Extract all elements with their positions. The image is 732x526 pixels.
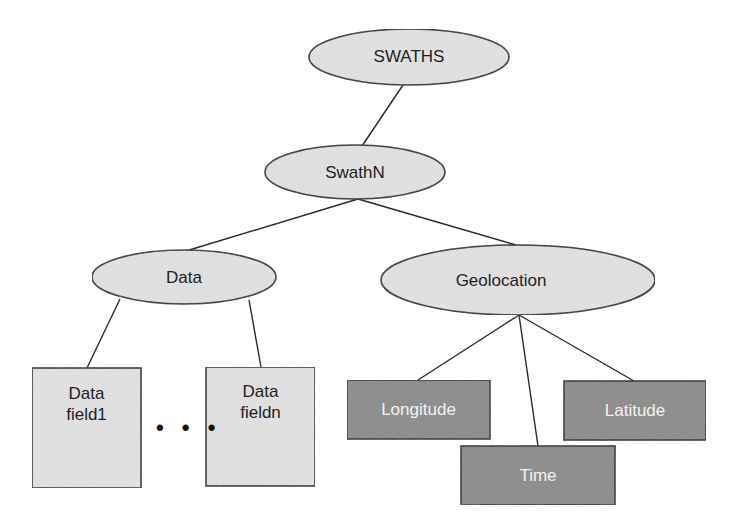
node-longitude [347,380,490,439]
edge-data-fieldn [249,300,261,367]
ellipsis-dots: • • • [156,418,221,438]
label-data-fieldn: Data fieldn [206,381,315,423]
edge-geolocation-latitude [519,315,634,381]
node-time [461,446,615,505]
edge-geolocation-time [519,315,538,446]
edge-swathn-geolocation [358,199,516,245]
label-data-field1: Data field1 [32,383,141,425]
label-data-field1-line2: field1 [32,404,141,425]
edge-data-field1 [87,299,120,368]
label-data-field1-line1: Data [32,383,141,404]
diagram-canvas [0,0,732,526]
node-swaths [309,29,509,85]
node-latitude [564,381,706,440]
edge-swaths-swathn [362,85,403,146]
node-swathn [265,145,445,199]
label-data-fieldn-line2: fieldn [206,402,315,423]
label-data-fieldn-line1: Data [206,381,315,402]
node-geolocation [381,245,655,315]
edge-swathn-data [186,199,358,251]
geolocation-field-nodes [347,380,706,505]
edge-geolocation-longitude [418,315,519,380]
node-data [92,250,276,304]
ellipse-nodes [92,29,655,315]
